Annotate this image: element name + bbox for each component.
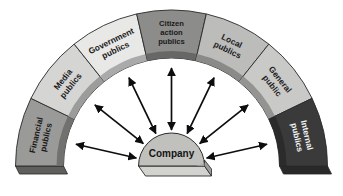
arrow-to-financial-publics bbox=[76, 144, 136, 158]
arrow-to-general-public bbox=[200, 105, 248, 144]
publics-arch-diagram: FinancialpublicsMediapublicsGovernmentpu… bbox=[0, 0, 343, 196]
arch-end-face-left bbox=[16, 166, 68, 174]
company-node[interactable]: Company bbox=[139, 133, 212, 176]
arrow-to-internal-publics bbox=[207, 144, 267, 158]
diagram-canvas: FinancialpublicsMediapublicsGovernmentpu… bbox=[0, 0, 343, 196]
segment-inner-bevel bbox=[146, 51, 197, 61]
arch-end-face-right bbox=[280, 166, 332, 174]
company-base-slab bbox=[139, 166, 212, 176]
arch-segment-citizen-action-publics[interactable]: Citizenactionpublics bbox=[137, 10, 207, 61]
segment-label-citizen-action-publics: Citizenactionpublics bbox=[158, 19, 185, 46]
company-label: Company bbox=[149, 148, 195, 159]
arrow-to-local-publics bbox=[187, 78, 214, 134]
arrow-to-government-publics bbox=[129, 78, 156, 134]
arrow-to-media-publics bbox=[95, 105, 143, 144]
